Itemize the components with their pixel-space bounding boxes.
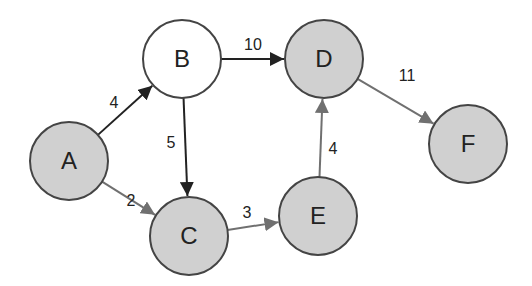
edge-weight-b-c: 5 <box>167 134 176 151</box>
edge-weight-d-f: 11 <box>399 67 416 84</box>
edge-weight-e-d: 4 <box>329 140 338 157</box>
edge-weight-c-e: 3 <box>243 204 252 221</box>
node-a: A <box>30 122 108 200</box>
edge-c-e <box>228 222 279 230</box>
node-d: D <box>285 20 363 98</box>
edge-e-d <box>319 99 322 177</box>
edges-group <box>98 59 434 230</box>
node-b: B <box>143 20 221 98</box>
node-e: E <box>279 177 357 255</box>
edge-b-c <box>184 98 188 196</box>
edge-weight-a-c: 2 <box>127 192 136 209</box>
node-label: B <box>174 45 190 72</box>
edge-a-b <box>98 86 152 135</box>
node-label: F <box>461 130 476 157</box>
edge-d-f <box>358 79 434 124</box>
node-f: F <box>429 105 507 183</box>
edge-weight-b-d: 10 <box>244 36 262 53</box>
node-label: A <box>61 147 77 174</box>
edge-weight-a-b: 4 <box>110 94 119 111</box>
node-c: C <box>150 197 228 275</box>
node-label: C <box>180 222 197 249</box>
node-label: D <box>315 45 332 72</box>
node-label: E <box>310 202 326 229</box>
graph-diagram: 410523411 ABCDEF <box>0 0 532 286</box>
